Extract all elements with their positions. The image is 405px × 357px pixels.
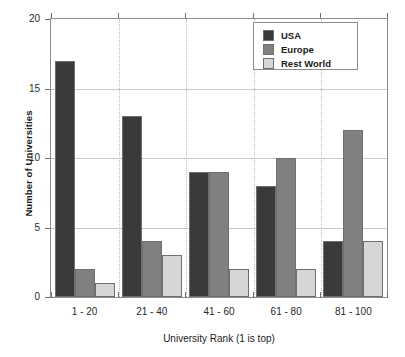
y-tick-label: 10 [0,152,40,163]
bar-europe-4 [343,130,363,297]
legend-swatch-icon [263,44,274,55]
bar-usa-0 [55,61,75,297]
legend-label: Europe [281,45,314,55]
y-tick-label: 0 [0,291,40,302]
x-tick-label-4: 81 - 100 [308,306,398,317]
legend-item-europe[interactable]: Europe [263,43,314,56]
x-tick-mark [387,292,388,298]
x-tick-mark [118,292,119,298]
x-tick-mark [185,292,186,298]
x-tick-mark-top [51,13,52,18]
bar-rest-world-4 [363,241,383,297]
x-tick-mark-top [253,13,254,18]
bar-rest-world-3 [296,269,316,297]
x-tick-mark-top [118,13,119,18]
bar-usa-1 [122,116,142,297]
legend-item-usa[interactable]: USA [263,29,301,42]
legend-swatch-icon [263,30,274,41]
bar-usa-2 [189,172,209,297]
legend: USAEuropeRest World [253,22,358,70]
bar-chart: Number of Universities 05101520 1 - 2021… [0,0,405,357]
x-tick-mark-top [320,13,321,18]
bar-usa-3 [256,186,276,297]
y-axis-title: Number of Universities [23,64,34,264]
bar-europe-2 [209,172,229,297]
y-tick-label: 5 [0,222,40,233]
bar-usa-4 [323,241,343,297]
bar-rest-world-0 [95,283,115,297]
y-tick-label: 20 [0,13,40,24]
x-tick-mark [320,292,321,298]
x-tick-mark-top [185,13,186,18]
y-tick-label: 15 [0,83,40,94]
x-tick-mark-top [387,13,388,18]
legend-label: Rest World [281,59,331,69]
x-tick-mark [253,292,254,298]
bar-europe-0 [75,269,95,297]
bar-europe-1 [142,241,162,297]
bar-rest-world-1 [162,255,182,297]
legend-item-rest-world[interactable]: Rest World [263,57,331,70]
bar-europe-3 [276,158,296,297]
x-tick-mark [51,292,52,298]
bar-rest-world-2 [229,269,249,297]
legend-swatch-icon [263,58,274,69]
legend-label: USA [281,31,301,41]
x-axis-title: University Rank (1 is top) [50,333,388,344]
